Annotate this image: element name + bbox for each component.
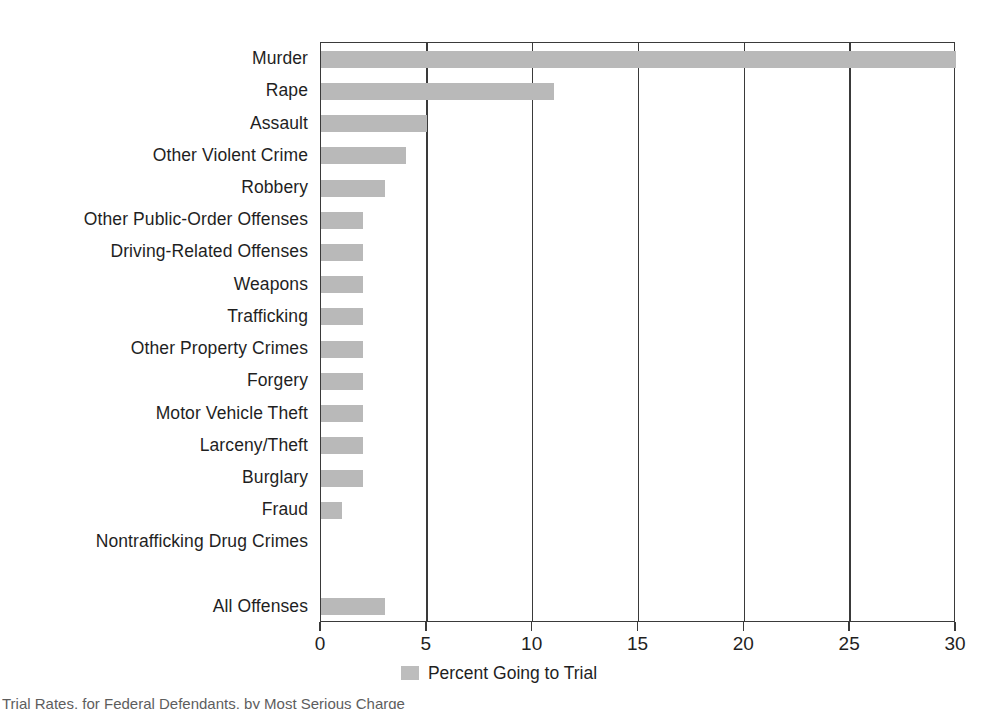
x-axis-tick-15 (637, 622, 638, 631)
gridline-20 (744, 43, 745, 621)
y-axis-label: Rape (0, 80, 314, 100)
x-axis-tick-label: 30 (944, 632, 965, 656)
gridline-25 (849, 43, 850, 621)
y-axis-label: Weapons (0, 274, 314, 294)
y-axis-label: Robbery (0, 177, 314, 197)
y-axis-label: Driving-Related Offenses (0, 241, 314, 261)
y-axis-label: Forgery (0, 370, 314, 390)
bar (321, 470, 363, 487)
plot-area (320, 42, 955, 622)
y-axis-label: Other Property Crimes (0, 338, 314, 358)
legend-label: Percent Going to Trial (428, 663, 597, 683)
x-axis: 051015202530 (320, 622, 955, 662)
x-axis-tick-label: 15 (627, 632, 648, 656)
bar (321, 437, 363, 454)
bar (321, 405, 363, 422)
y-axis-label: Trafficking (0, 306, 314, 326)
y-axis-label: Fraud (0, 499, 314, 519)
gridline-10 (532, 43, 533, 621)
bar (321, 147, 406, 164)
x-axis-tick-20 (743, 622, 744, 631)
figure-caption: Trial Rates, for Federal Defendants, by … (2, 696, 702, 709)
y-axis-label: All Offenses (0, 596, 314, 616)
y-axis-label: Burglary (0, 467, 314, 487)
y-axis-label: Murder (0, 48, 314, 68)
bar (321, 244, 363, 261)
bar (321, 212, 363, 229)
x-axis-tick-label: 10 (521, 632, 542, 656)
y-axis-label: Other Violent Crime (0, 145, 314, 165)
bar (321, 502, 342, 519)
bar (321, 341, 363, 358)
bar (321, 373, 363, 390)
x-axis-tick-30 (954, 622, 955, 631)
x-axis-tick-0 (319, 622, 320, 631)
bar (321, 598, 385, 615)
x-axis-tick-25 (848, 622, 849, 631)
x-axis-tick-label: 0 (315, 632, 326, 656)
y-axis-category-labels: MurderRapeAssaultOther Violent CrimeRobb… (0, 42, 314, 622)
bar (321, 180, 385, 197)
x-axis-tick-label: 5 (421, 632, 432, 656)
x-axis-tick-label: 20 (733, 632, 754, 656)
bar (321, 83, 554, 100)
gridline-15 (638, 43, 639, 621)
y-axis-label: Assault (0, 113, 314, 133)
y-axis-label: Nontrafficking Drug Crimes (0, 531, 314, 551)
x-axis-tick-label: 25 (839, 632, 860, 656)
legend-swatch-icon (401, 666, 419, 680)
bar-chart-figure: MurderRapeAssaultOther Violent CrimeRobb… (0, 0, 998, 709)
bar (321, 51, 956, 68)
bar (321, 276, 363, 293)
y-axis-label: Other Public-Order Offenses (0, 209, 314, 229)
x-axis-tick-10 (531, 622, 532, 631)
chart-legend: Percent Going to Trial (0, 660, 998, 686)
bar (321, 115, 427, 132)
bar (321, 308, 363, 325)
x-axis-tick-5 (425, 622, 426, 631)
y-axis-label: Larceny/Theft (0, 435, 314, 455)
y-axis-label: Motor Vehicle Theft (0, 403, 314, 423)
